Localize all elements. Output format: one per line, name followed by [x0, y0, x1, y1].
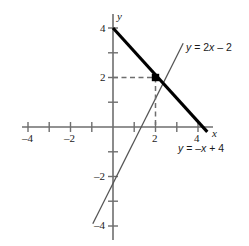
equation-label-steep-line: y = 2x – 2: [186, 42, 232, 53]
x-tick-label-neg2: –2: [64, 133, 75, 144]
equation-shallow-body: = –: [183, 142, 201, 154]
line-y-equals-2x-minus-2: [93, 43, 183, 224]
x-axis-label: x: [212, 128, 217, 139]
x-tick-label-neg4: –4: [22, 133, 33, 144]
y-tick-label-neg4: –4: [94, 220, 105, 231]
equation-steep-tail: – 2: [214, 41, 232, 53]
equation-label-shallow-line: y = –x + 4: [178, 143, 224, 154]
x-tick-label-2: 2: [152, 133, 158, 144]
y-tick-label-neg2: –2: [94, 171, 105, 182]
equation-shallow-tail: + 4: [206, 142, 224, 154]
y-tick-label-4: 4: [100, 23, 106, 34]
y-tick-label-2: 2: [100, 72, 106, 83]
coordinate-plane-figure: y x –4 –2 2 4 4 2 –2 –4 y = 2x – 2 y = –…: [0, 0, 249, 246]
graph-canvas: [0, 0, 249, 246]
intersection-point-marker: [152, 74, 159, 81]
equation-steep-body: = 2: [191, 41, 209, 53]
y-axis-label: y: [117, 11, 122, 22]
